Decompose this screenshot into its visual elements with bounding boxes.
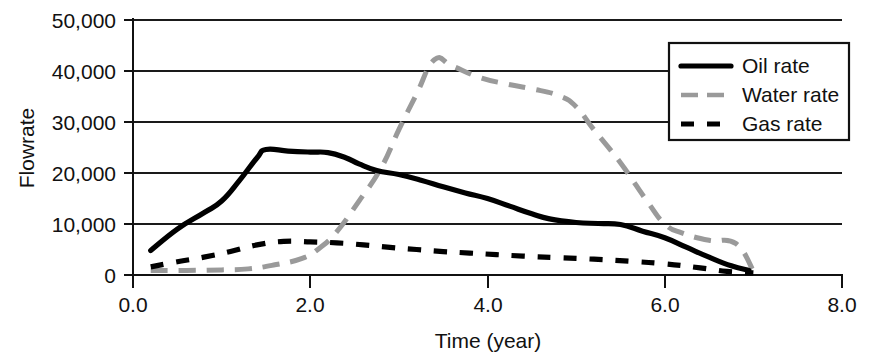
- x-tick-label-6: 6.0: [650, 293, 679, 316]
- series-line-oil-rate: [151, 149, 749, 270]
- x-axis-title: Time (year): [435, 329, 542, 352]
- legend-label-gas-rate: Gas rate: [742, 112, 823, 135]
- y-tick-label-20000: 20,000: [52, 162, 116, 185]
- x-tick-labels: 0.0 2.0 4.0 6.0 8.0: [118, 293, 856, 316]
- legend-label-water-rate: Water rate: [742, 83, 839, 106]
- x-tick-label-8: 8.0: [827, 293, 856, 316]
- y-axis-title: Flowrate: [15, 108, 38, 189]
- flowrate-chart: 50,000 40,000 30,000 20,000 10,000 0 0.0…: [0, 0, 887, 361]
- y-tick-marks: [124, 20, 133, 275]
- y-tick-label-50000: 50,000: [52, 9, 116, 32]
- chart-canvas: 50,000 40,000 30,000 20,000 10,000 0 0.0…: [0, 0, 887, 361]
- legend-label-oil-rate: Oil rate: [742, 54, 810, 77]
- legend: Oil rate Water rate Gas rate: [669, 43, 849, 140]
- y-tick-label-0: 0: [104, 264, 116, 287]
- y-tick-label-10000: 10,000: [52, 213, 116, 236]
- y-tick-label-30000: 30,000: [52, 111, 116, 134]
- x-tick-label-2: 2.0: [295, 293, 324, 316]
- x-tick-marks: [133, 275, 842, 288]
- y-tick-label-40000: 40,000: [52, 60, 116, 83]
- y-tick-labels: 50,000 40,000 30,000 20,000 10,000 0: [52, 9, 116, 287]
- x-tick-label-0: 0.0: [118, 293, 147, 316]
- series-paths: [151, 58, 754, 273]
- x-tick-label-4: 4.0: [473, 293, 502, 316]
